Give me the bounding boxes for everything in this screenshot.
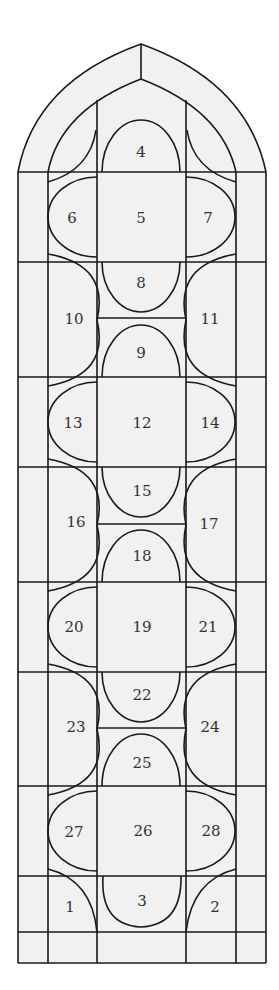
- panel-label-17: 17: [199, 515, 218, 533]
- panel-label-21: 21: [198, 618, 217, 636]
- panel-label-14: 14: [200, 414, 219, 432]
- panel-label-19: 19: [132, 618, 151, 636]
- panel-label-6: 6: [67, 209, 77, 227]
- panel-label-27: 27: [64, 823, 83, 841]
- panel-label-11: 11: [200, 310, 219, 328]
- panel-label-15: 15: [132, 482, 151, 500]
- panel-label-12: 12: [132, 414, 151, 432]
- panel-label-20: 20: [64, 618, 83, 636]
- panel-label-28: 28: [201, 822, 220, 840]
- panel-label-26: 26: [133, 822, 152, 840]
- panel-label-9: 9: [136, 344, 146, 362]
- stained-glass-window-diagram: 1 2 3 4 5 6 7 8 9 10 11 12 13 14 15 16 1…: [0, 0, 279, 990]
- panel-label-2: 2: [210, 898, 220, 916]
- panel-label-8: 8: [136, 274, 146, 292]
- panel-label-5: 5: [136, 209, 146, 227]
- panel-label-18: 18: [132, 547, 151, 565]
- panel-label-22: 22: [132, 686, 151, 704]
- panel-label-7: 7: [203, 209, 213, 227]
- panel-label-24: 24: [200, 718, 219, 736]
- panel-label-13: 13: [63, 414, 82, 432]
- panel-label-10: 10: [64, 310, 83, 328]
- panel-label-16: 16: [66, 513, 85, 531]
- panel-label-3: 3: [137, 892, 147, 910]
- panel-label-23: 23: [66, 718, 85, 736]
- panel-label-25: 25: [132, 754, 151, 772]
- panel-label-4: 4: [136, 143, 146, 161]
- panel-label-1: 1: [65, 898, 75, 916]
